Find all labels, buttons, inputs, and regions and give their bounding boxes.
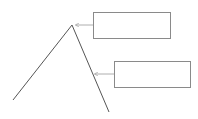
callout-box-right-leg[interactable] [115,62,191,88]
callout-box-apex[interactable] [94,13,171,39]
left-leg-line [13,25,72,100]
diagram-canvas [0,0,198,119]
callout-right-leg [95,62,191,88]
callout-apex [76,13,171,39]
